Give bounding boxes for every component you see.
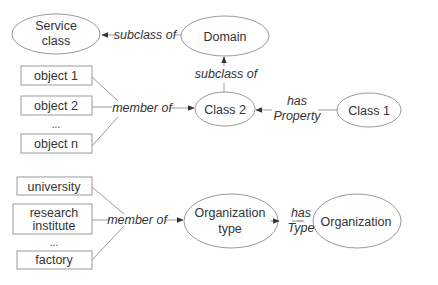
node-organization: Organization — [313, 194, 401, 248]
node-organization-type: Organization type — [184, 194, 278, 248]
object-1-label: object 1 — [34, 69, 78, 83]
research-institute-line2: institute — [32, 219, 75, 233]
edge-org-has-type-org-type: has Type — [270, 206, 314, 235]
node-service-class-line1: Service — [35, 19, 77, 33]
edge-label-has-2: has — [291, 206, 311, 220]
node-object-1: object 1 — [21, 66, 92, 85]
object-n-label: object n — [34, 137, 78, 151]
node-university: university — [17, 177, 92, 195]
node-organization-label: Organization — [321, 215, 392, 229]
node-class2-label: Class 2 — [204, 103, 246, 117]
university-label: university — [28, 180, 82, 194]
node-service-class: Service class — [12, 14, 100, 54]
edge-label-subclass-of-2: subclass of — [195, 67, 259, 81]
node-object-2: object 2 — [21, 96, 92, 115]
factory-label: factory — [35, 253, 73, 267]
edge-label-property: Property — [273, 109, 321, 123]
members-ellipsis: ... — [50, 237, 58, 248]
node-class1-label: Class 1 — [348, 104, 390, 118]
node-object-n: object n — [21, 134, 92, 153]
edge-objects-member-of-class2: member of — [92, 77, 194, 146]
node-class2: Class 2 — [195, 92, 255, 126]
edge-class1-has-property-class2: has Property — [256, 94, 337, 123]
edge-label-type: Type — [288, 221, 315, 235]
edge-label-has: has — [287, 94, 307, 108]
node-org-type-line2: type — [218, 222, 242, 236]
edge-members-member-of-org-type: member of — [92, 187, 183, 260]
research-institute-line1: research — [30, 206, 79, 220]
edge-domain-subclass-of-service: subclass of — [102, 28, 181, 42]
node-research-institute: research institute — [13, 204, 92, 234]
object-2-label: object 2 — [34, 99, 78, 113]
node-class1: Class 1 — [337, 93, 401, 127]
edge-class2-subclass-of-domain: subclass of — [195, 57, 259, 92]
node-factory: factory — [17, 251, 92, 269]
node-org-type-line1: Organization — [195, 206, 266, 220]
node-domain: Domain — [181, 16, 269, 56]
objects-ellipsis: ... — [52, 119, 60, 130]
edge-label-member-of-2: member of — [107, 213, 168, 227]
edge-label-member-of-1: member of — [112, 101, 173, 115]
ontology-diagram: Service class Domain subclass of Class 2… — [0, 0, 438, 285]
edge-label-subclass-of-1: subclass of — [114, 28, 178, 42]
node-service-class-line2: class — [42, 34, 70, 48]
node-domain-label: Domain — [203, 30, 246, 44]
